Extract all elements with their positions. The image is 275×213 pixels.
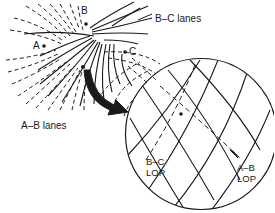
- station-c-dot: [123, 50, 127, 54]
- fix-point-dot: [81, 65, 85, 69]
- fix-point-circle: [179, 112, 183, 116]
- station-a-label: A: [33, 41, 40, 51]
- magnify-arrow: [84, 70, 128, 115]
- ab-lop-label-line1: A–B: [237, 163, 255, 173]
- diagram-graphic: [0, 0, 274, 213]
- station-a-dot: [42, 44, 46, 48]
- bc-lanes-label: B–C lanes: [155, 14, 201, 24]
- ab-lanes-label: A–B lanes: [21, 121, 67, 131]
- bc-lop-label-line1: B–C: [146, 157, 164, 167]
- zoom-circle: [126, 59, 275, 210]
- bc-lop-label-line2: LOP: [146, 168, 165, 178]
- ab-lop-label-line2: LOP: [237, 174, 256, 184]
- station-b-label: B: [81, 6, 88, 16]
- navigation-lanes-diagram: B A C B–C lanes A–B lanes B–C LOP A–B LO…: [0, 0, 274, 213]
- station-b-dot: [84, 22, 88, 26]
- station-c-label: C: [129, 47, 136, 57]
